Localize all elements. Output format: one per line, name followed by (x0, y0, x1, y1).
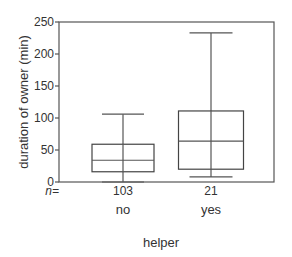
box-yes (179, 33, 244, 177)
x-axis-title: helper (143, 235, 180, 250)
x-category-label: yes (201, 202, 222, 217)
y-tick-label: 50 (41, 143, 55, 157)
y-tick-label: 150 (34, 79, 54, 93)
x-category-label: no (116, 202, 130, 217)
y-tick-label: 100 (34, 111, 54, 125)
n-count-label: 103 (113, 184, 133, 198)
y-axis-ticks: 050100150200250 (34, 15, 59, 189)
x-axis-categories: noyes (116, 202, 222, 217)
n-count-label: 21 (204, 184, 218, 198)
n-prefix-label: n= (45, 184, 59, 198)
box-no (92, 114, 154, 182)
y-tick-label: 250 (34, 15, 54, 29)
n-labels: n= 10321 (45, 184, 218, 198)
y-tick-label: 200 (34, 47, 54, 61)
box-plot-chart: 050100150200250 n= 10321 noyes helper du… (0, 0, 292, 257)
box-plot-series (92, 33, 244, 182)
y-axis-title: duration of owner (min) (16, 35, 31, 169)
